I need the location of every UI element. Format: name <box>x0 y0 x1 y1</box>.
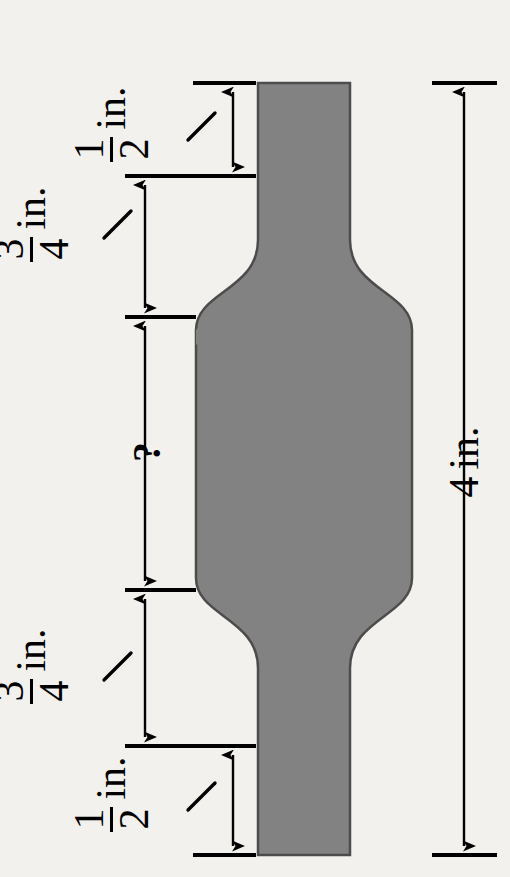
unit-label-overall: in. <box>440 426 488 469</box>
leader-bottom-fillet <box>104 653 131 680</box>
fraction-numerator: 3 <box>0 679 30 704</box>
fraction-bottom-neck: 1 2 <box>68 807 155 832</box>
fraction-denominator: 2 <box>110 807 155 832</box>
leader-top-neck <box>188 113 215 140</box>
fraction-top-neck: 1 2 <box>68 137 155 162</box>
label-top-neck: 1 2 in. <box>75 64 147 184</box>
part-shape <box>196 83 412 855</box>
label-overall: 4 in. <box>434 402 494 522</box>
unit-label-top-fillet: in. <box>7 186 55 229</box>
fraction-denominator: 4 <box>30 237 75 262</box>
unknown-symbol: ? <box>123 442 170 462</box>
label-bottom-neck: 1 2 in. <box>75 734 147 854</box>
fraction-top-fillet: 3 4 <box>0 237 75 262</box>
fraction-denominator: 2 <box>110 137 155 162</box>
diagram-canvas: 1 2 in. 3 4 in. ? 3 4 in. 1 2 in. 4 in. <box>0 0 510 877</box>
label-top-fillet: 3 4 in. <box>0 164 67 284</box>
leader-bottom-neck <box>188 783 215 810</box>
fraction-denominator: 4 <box>30 679 75 704</box>
unit-label-bottom-fillet: in. <box>7 628 55 671</box>
label-unknown-dimension: ? <box>118 417 174 487</box>
fraction-numerator: 1 <box>68 807 110 832</box>
unit-label-top-neck: in. <box>87 86 135 129</box>
unit-label-bottom-neck: in. <box>87 756 135 799</box>
fraction-numerator: 1 <box>68 137 110 162</box>
label-bottom-fillet: 3 4 in. <box>0 606 67 726</box>
fraction-numerator: 3 <box>0 237 30 262</box>
fraction-bottom-fillet: 3 4 <box>0 679 75 704</box>
leader-top-fillet <box>104 211 131 238</box>
overall-value: 4 <box>440 477 488 498</box>
